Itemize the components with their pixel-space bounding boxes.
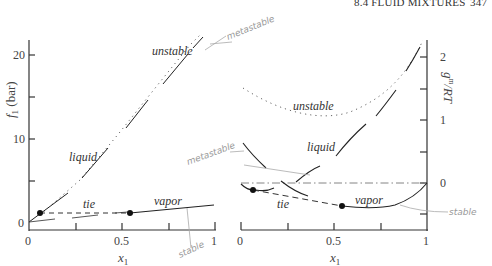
right-ytick-0: 0 [440,176,446,190]
right-tie-line [253,190,342,206]
right-ytick-1: 1 [440,113,446,127]
right-xtick-1: 1 [423,234,429,248]
right-axes [241,40,428,231]
handwritten-metastable-mid: metastable [185,140,237,167]
left-label-liquid: liquid [69,150,98,164]
left-unstable-curve [40,35,200,215]
left-label-tie: tie [83,197,96,211]
right-xtick-0: 0 [237,234,243,248]
right-liquid-stable [241,184,274,191]
left-vapor-point [127,210,133,216]
stable-pointer-left [187,208,191,248]
left-label-vapor: vapor [154,194,182,208]
metastable-pointer-right [230,151,310,175]
right-label-liquid: liquid [307,140,336,154]
left-xtick-05: 0.5 [114,234,129,248]
left-curves [29,35,214,222]
stable-pointer-right [400,205,448,212]
right-plot: 2 1 0 0 0.5 1 gm/RT x1 [185,40,477,266]
right-x-label: x1 [329,250,340,266]
right-ytick-2: 2 [440,50,446,64]
left-liquid-stable [29,193,68,222]
right-curves [241,40,427,209]
right-vapor-point [339,203,345,209]
handwritten-stable-right: stable [449,207,477,217]
left-ytick-0: 0 [18,216,24,230]
left-x-label: x1 [117,250,128,266]
right-y-label: gm/RT [441,72,456,104]
handwritten-metastable-top: metastable [225,13,276,41]
figure: 20 10 0 0 0.5 1 f1 (bar) x1 [0,0,492,266]
left-label-unstable: unstable [152,44,193,58]
left-xtick-0: 0 [25,234,31,248]
right-label-vapor: vapor [355,193,383,207]
left-plot: 20 10 0 0 0.5 1 f1 (bar) x1 [3,13,276,266]
handwritten-stable-left: stable [177,239,207,260]
left-ytick-20: 20 [13,48,25,62]
right-liquid-metastable [243,47,420,182]
left-ytick-10: 10 [13,132,25,146]
right-label-unstable: unstable [293,99,334,113]
right-liquid-point [250,187,256,193]
left-y-label: f1 (bar) [3,81,20,118]
left-axes [29,40,216,231]
left-liquid-point [37,210,43,216]
left-xtick-1: 1 [211,234,217,248]
right-xtick-05: 0.5 [326,234,341,248]
right-label-tie: tie [277,197,290,211]
